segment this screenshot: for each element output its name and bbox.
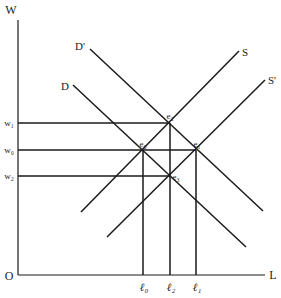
x-axis-label: L	[269, 268, 276, 282]
equilibrium-label-e2: e₂	[166, 111, 173, 121]
y-axis-label: W	[5, 3, 17, 17]
equilibrium-label-e3: e₃	[172, 172, 179, 182]
wage-label-w2: w₂	[4, 171, 14, 181]
curve-label-demand-shifted: D'	[75, 40, 85, 52]
curve-label-supply-shifted: S'	[268, 74, 276, 86]
curve-label-demand: D	[61, 80, 69, 92]
supply-curve	[81, 51, 239, 212]
labor-label-l1: ℓ₁	[193, 281, 202, 293]
curve-label-supply: S	[242, 46, 248, 58]
labor-label-l0: ℓ₀	[140, 281, 149, 293]
demand-curve	[73, 85, 246, 247]
wage-label-w0: w₀	[4, 145, 14, 155]
labor-label-l2: ℓ₂	[167, 281, 176, 293]
equilibrium-label-e1: e₁	[193, 139, 200, 149]
equilibrium-label-e0: e₀	[139, 139, 146, 149]
supply-curve-shifted	[107, 80, 265, 237]
demand-curve-shifted	[90, 49, 263, 211]
labor-market-diagram: W L O w₁ w₀ w₂ ℓ₀ ℓ₂ ℓ₁ D' D S S' e₂ e₀ …	[0, 0, 281, 298]
origin-label: O	[5, 269, 14, 283]
wage-label-w1: w₁	[4, 118, 14, 128]
